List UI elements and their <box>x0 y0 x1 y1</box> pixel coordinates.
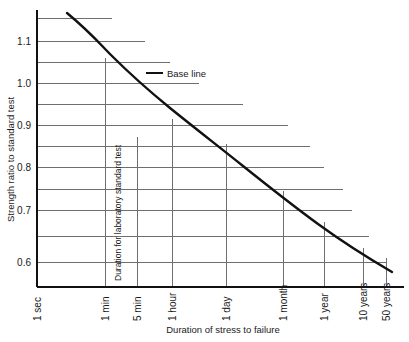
y-tick-label-1.0: 1.0 <box>17 78 31 89</box>
y-tick-label-0.8: 0.8 <box>17 162 31 173</box>
x-tick-label-1-min: 1 min <box>100 297 111 321</box>
lab-duration-annotation: Duration for laboratory standard test <box>113 144 123 281</box>
y-axis-title: Strength ratio to standard test <box>5 96 16 222</box>
chart-container: Base line Duration for laboratory standa… <box>0 0 409 342</box>
y-tick-label-1.1: 1.1 <box>17 36 31 47</box>
x-tick-label-5-min: 5 min <box>132 297 143 321</box>
x-tick-label-1-year: 1 year <box>319 293 330 321</box>
base-line-annotation: Base line <box>167 68 206 79</box>
vertical-gridlines <box>105 58 386 287</box>
x-tick-label-1-month: 1 month <box>278 285 289 321</box>
x-tick-label-50-years: 50 years <box>381 283 392 321</box>
x-tick-label-1-day: 1 day <box>221 297 232 321</box>
x-axis-title: Duration of stress to failure <box>166 324 280 335</box>
x-tick-label-10-years: 10 years <box>358 283 369 321</box>
y-tick-label-0.6: 0.6 <box>17 257 31 268</box>
y-tick-label-0.7: 0.7 <box>17 205 31 216</box>
y-tick-label-0.9: 0.9 <box>17 120 31 131</box>
x-tick-label-1-hour: 1 hour <box>167 292 178 321</box>
line-chart: Base line Duration for laboratory standa… <box>0 0 409 342</box>
y-axis-tick-labels: 1.1 1.0 0.9 0.8 0.7 0.6 <box>17 36 31 268</box>
x-axis-tick-labels: 1 sec 1 min 5 min 1 hour 1 day 1 month 1… <box>32 283 392 321</box>
x-tick-label-1-sec: 1 sec <box>32 297 43 321</box>
